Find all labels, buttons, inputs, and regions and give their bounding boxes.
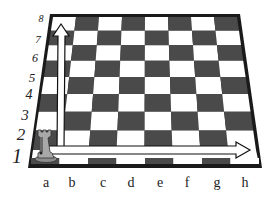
board-square — [71, 45, 97, 60]
board-square — [93, 77, 120, 94]
board-square — [198, 112, 227, 131]
board-square — [216, 31, 242, 46]
file-label-a: a — [43, 176, 49, 190]
bottom-strip-segment — [174, 158, 203, 164]
board-square — [171, 94, 198, 112]
board-square — [214, 17, 239, 31]
rank-label-5: 5 — [29, 71, 36, 84]
board-square — [90, 112, 118, 131]
board-square — [170, 77, 196, 94]
file-label-c: c — [100, 176, 106, 190]
board-square — [118, 94, 145, 112]
file-label-e: e — [157, 176, 163, 190]
board-square — [67, 77, 94, 94]
board-square — [191, 17, 216, 31]
board-square — [96, 45, 121, 60]
board-square — [217, 45, 243, 60]
board-square — [196, 94, 224, 112]
board-square — [145, 45, 170, 60]
rank-label-6: 6 — [32, 52, 38, 64]
rank-label-4: 4 — [26, 88, 33, 102]
board-square — [145, 17, 169, 31]
board-square — [117, 112, 144, 131]
bottom-strip-segment — [231, 158, 260, 164]
board-square — [65, 94, 93, 112]
board-square — [169, 61, 195, 77]
board-square — [94, 61, 120, 77]
file-label-d: d — [128, 176, 135, 190]
board-square — [194, 61, 220, 77]
board-square — [171, 112, 199, 131]
rank-label-3: 3 — [21, 108, 29, 123]
board-square — [168, 17, 192, 31]
board-square — [193, 45, 219, 60]
board-square — [219, 61, 246, 77]
file-label-g: g — [214, 176, 221, 190]
rank-label-8: 8 — [39, 14, 44, 24]
rank-label-7: 7 — [35, 34, 41, 45]
file-label-f: f — [185, 176, 190, 190]
bottom-strip-segment — [117, 158, 146, 164]
board-square — [98, 17, 122, 31]
board-square — [120, 45, 145, 60]
board-square — [195, 77, 222, 94]
board-square — [145, 94, 172, 112]
chessboard-diagram: 87654321 abcdefgh — [0, 0, 278, 201]
board-square — [145, 31, 169, 46]
board-square — [63, 112, 92, 131]
board-square — [120, 61, 145, 77]
board-square — [92, 94, 119, 112]
board-square — [97, 31, 122, 46]
board-square — [73, 31, 98, 46]
bottom-strip-segment — [202, 158, 231, 164]
chessboard — [0, 0, 278, 201]
file-label-b: b — [69, 176, 76, 190]
board-square — [169, 45, 194, 60]
board-square — [169, 31, 194, 46]
board-square — [121, 17, 145, 31]
file-label-h: h — [242, 176, 249, 190]
board-square — [145, 112, 172, 131]
board-square — [69, 61, 95, 77]
board-square — [121, 31, 145, 46]
board-square — [224, 112, 253, 131]
rank-label-1: 1 — [12, 146, 22, 166]
bottom-strip-segment — [60, 158, 89, 164]
bottom-strip-segment — [88, 158, 117, 164]
board-square — [192, 31, 217, 46]
board-square — [119, 77, 145, 94]
board-square — [220, 77, 248, 94]
board-square — [74, 17, 99, 31]
board-square — [145, 61, 170, 77]
board-square — [145, 77, 171, 94]
bottom-strip-segment — [145, 158, 174, 164]
board-square — [222, 94, 250, 112]
rank-label-2: 2 — [17, 126, 26, 143]
